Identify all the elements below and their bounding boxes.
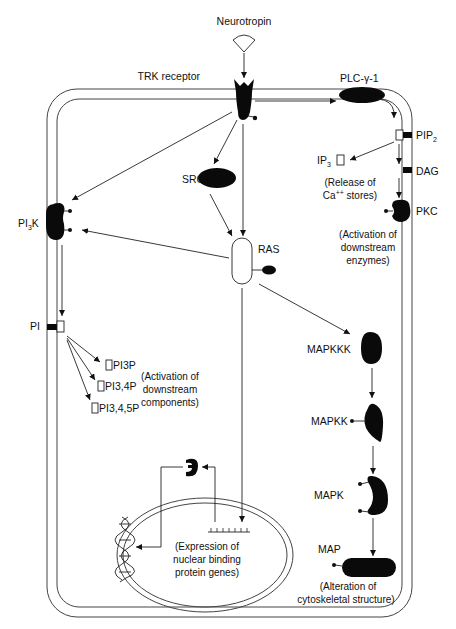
ip3-label: IP3 <box>317 154 331 168</box>
cell-membrane <box>47 89 412 617</box>
binding-protein-icon <box>186 459 198 476</box>
mapkkk-label: MAPKKK <box>307 343 351 355</box>
pi-label: PI <box>30 320 40 332</box>
pip2-label: PIP2 <box>416 129 437 143</box>
mapk-cascade: MAPKKK MAPKK MAPK MAP (Alteration of cyt… <box>297 332 396 605</box>
ras: RAS <box>82 230 350 522</box>
pi-note-line1: (Activation of <box>141 371 199 382</box>
ip3: IP3 (Release of Ca++ stores) <box>317 142 394 201</box>
src: SRC <box>182 120 237 236</box>
map-note-line2: cytoskeletal structure) <box>297 594 394 605</box>
pi-note-line2: downstream <box>143 384 197 395</box>
dag: DAG <box>399 144 439 198</box>
map-label: MAP <box>318 543 341 555</box>
receptor-icon <box>234 79 254 120</box>
pi-note-line3: components) <box>141 397 199 408</box>
pi3k: PI3K <box>18 203 72 316</box>
pkc-note-line2: downstream <box>341 242 395 253</box>
pkc: PKC (Activation of downstream enzymes) <box>339 200 438 266</box>
pi3k-icon <box>46 203 65 240</box>
plc-gamma-1: PLC-γ-1 <box>255 72 394 118</box>
neurotropin-signaling-diagram: Neurotropin TRK receptor PLC-γ-1 PIP2 IP… <box>0 0 456 629</box>
mapk-label: MAPK <box>314 489 344 501</box>
pi: PI <box>30 320 100 400</box>
pkc-icon <box>392 200 410 222</box>
pi3p-label: PI3P <box>113 359 136 371</box>
plc-icon <box>339 87 385 103</box>
mapk-icon <box>368 476 389 515</box>
src-icon <box>198 168 236 188</box>
nucleus-note-line1: (Expression of <box>175 541 239 552</box>
nucleus-note-line2: nuclear binding <box>173 554 241 565</box>
pi-products: PI3P PI3,4P PI3,4,5P (Activation of down… <box>92 359 199 414</box>
pi345p-label: PI3,4,5P <box>99 402 139 414</box>
mapkk-label: MAPKK <box>311 415 348 427</box>
pi3k-label: PI3K <box>18 217 39 231</box>
trk-receptor: TRK receptor <box>138 70 258 120</box>
ras-icon <box>232 238 252 284</box>
dna-icon <box>115 517 135 582</box>
pi-hollow-icon <box>57 321 64 332</box>
pkc-note-line1: (Activation of <box>339 229 397 240</box>
map-icon <box>342 558 396 577</box>
ca-note-line2: Ca++ stores) <box>323 189 377 201</box>
ras-label: RAS <box>258 243 280 255</box>
pkc-label: PKC <box>416 205 438 217</box>
ca-note-line1: (Release of <box>324 177 375 188</box>
nucleus: (Expression of nuclear binding protein g… <box>115 459 293 612</box>
map-note-line1: (Alteration of <box>320 581 377 592</box>
pi34p-label: PI3,4P <box>105 380 137 392</box>
pip2-hollow-icon <box>396 130 403 140</box>
mapkk-icon <box>364 404 383 442</box>
mapkkk-icon <box>361 332 382 364</box>
ip3-hollow-icon <box>337 155 344 165</box>
trk-receptor-label: TRK receptor <box>138 70 201 82</box>
neurotropin-ligand: Neurotropin <box>217 15 272 78</box>
nucleus-note-line3: protein genes) <box>175 567 239 578</box>
ligand-icon <box>233 35 255 52</box>
plc-label: PLC-γ-1 <box>340 72 379 84</box>
neurotropin-label: Neurotropin <box>217 15 272 27</box>
dag-label: DAG <box>416 165 439 177</box>
pkc-note-line3: enzymes) <box>346 255 389 266</box>
